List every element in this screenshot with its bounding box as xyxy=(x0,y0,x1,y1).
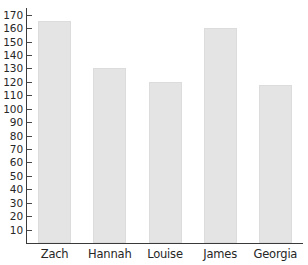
y-axis-tick-label: 80 xyxy=(0,131,23,141)
y-axis-tick-label-text: 110 xyxy=(0,90,23,100)
y-axis-tick-label-text: 170 xyxy=(0,10,23,20)
bar-chart: 1020304050607080901001101201301401501601… xyxy=(0,0,308,265)
y-axis-tick-label: 70 xyxy=(0,144,23,154)
bar xyxy=(259,85,292,243)
y-axis-tick-label-text: 20 xyxy=(0,211,23,221)
bar xyxy=(149,82,182,243)
y-axis-tick-label: 60 xyxy=(0,157,23,167)
x-axis-category-label: Louise xyxy=(137,247,192,261)
y-axis-tick-label: 120 xyxy=(0,77,23,87)
x-axis-line xyxy=(26,243,303,244)
y-axis-tick-label-text: 30 xyxy=(0,198,23,208)
y-axis-tick-label: 20 xyxy=(0,211,23,221)
y-axis-tick-label: 170 xyxy=(0,10,23,20)
y-axis-tick-label: 150 xyxy=(0,37,23,47)
y-axis-tick-label: 140 xyxy=(0,50,23,60)
y-axis-tick-label-text: 60 xyxy=(0,157,23,167)
y-axis-tick-label: 160 xyxy=(0,23,23,33)
y-axis-tick-label-text: 120 xyxy=(0,77,23,87)
y-axis-tick-label: 130 xyxy=(0,63,23,73)
bar xyxy=(204,28,237,243)
y-axis-tick-label: 50 xyxy=(0,171,23,181)
y-axis-tick-label-text: 130 xyxy=(0,63,23,73)
x-axis-category-label: Georgia xyxy=(248,247,303,261)
y-axis-tick-label: 40 xyxy=(0,184,23,194)
y-axis-tick-label-text: 40 xyxy=(0,184,23,194)
y-axis-tick-label: 110 xyxy=(0,90,23,100)
bars-layer xyxy=(27,8,303,243)
y-axis-tick-label-text: 100 xyxy=(0,104,23,114)
y-axis-tick-label-text: 70 xyxy=(0,144,23,154)
y-axis-tick-label-text: 10 xyxy=(0,225,23,235)
y-axis-tick-label-text: 50 xyxy=(0,171,23,181)
y-axis-tick-label-text: 90 xyxy=(0,117,23,127)
y-axis-tick-label: 100 xyxy=(0,104,23,114)
y-axis-tick-label-text: 150 xyxy=(0,37,23,47)
y-axis-tick-label-text: 140 xyxy=(0,50,23,60)
bar xyxy=(38,21,71,243)
y-axis-tick-label-text: 80 xyxy=(0,131,23,141)
y-axis-tick-label: 30 xyxy=(0,198,23,208)
x-axis-category-label: James xyxy=(193,247,248,261)
y-axis-tick-label: 90 xyxy=(0,117,23,127)
y-axis-tick-label-text: 160 xyxy=(0,23,23,33)
bar xyxy=(93,68,126,243)
y-axis-tick-label: 10 xyxy=(0,225,23,235)
x-axis-category-label: Hannah xyxy=(82,247,137,261)
x-axis-category-label: Zach xyxy=(27,247,82,261)
